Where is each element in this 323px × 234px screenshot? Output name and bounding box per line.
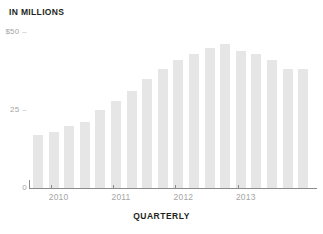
x-axis-caption: QUARTERLY — [0, 211, 323, 221]
bar — [95, 110, 105, 188]
bar-series — [30, 20, 315, 188]
bar — [267, 60, 277, 188]
bar — [33, 135, 43, 188]
bar — [251, 54, 261, 188]
x-axis-tick — [175, 185, 176, 189]
x-axis-tick — [113, 185, 114, 189]
bar — [220, 44, 230, 188]
chart-container: IN MILLIONS $50–25–0 2010201120122013 QU… — [0, 0, 323, 234]
x-axis-line — [29, 188, 317, 189]
y-axis-tick-label: 25– — [10, 105, 27, 114]
bar — [189, 54, 199, 188]
y-axis-tick-label: $50– — [5, 27, 27, 36]
plot-area — [30, 20, 315, 188]
x-axis-tick — [51, 185, 52, 189]
bar — [127, 91, 137, 188]
x-axis-tick-label: 2012 — [174, 192, 194, 202]
x-axis-tick-label: 2013 — [236, 192, 256, 202]
bar — [283, 69, 293, 188]
bar — [142, 79, 152, 188]
y-axis-tick-label: 0 — [22, 183, 27, 192]
bar — [49, 132, 59, 188]
bar — [80, 122, 90, 188]
bar — [64, 126, 74, 188]
bar — [111, 101, 121, 188]
x-axis-tick-label: 2011 — [111, 192, 130, 202]
x-axis-tick-label: 2010 — [49, 192, 69, 202]
bar — [173, 60, 183, 188]
bar — [205, 48, 215, 188]
bar — [298, 69, 308, 188]
bar — [236, 51, 246, 188]
x-axis-tick — [238, 185, 239, 189]
bar — [158, 69, 168, 188]
y-axis-labels: $50–25–0 — [0, 0, 27, 234]
